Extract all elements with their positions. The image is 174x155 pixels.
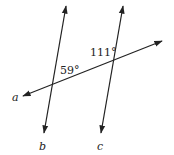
line-label-a: a [12,91,19,104]
angle-label-59: 59° [60,64,80,77]
angle-label-111: 111° [90,46,117,59]
line-label-c: c [97,140,103,153]
diagram-canvas: 59° 111° a b c [0,0,174,155]
line-label-b: b [39,140,46,153]
line-c [101,6,123,133]
